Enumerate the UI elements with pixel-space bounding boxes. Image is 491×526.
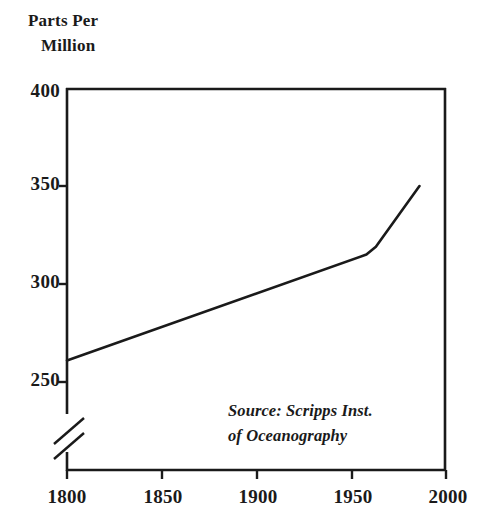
- y-axis-break-slash-lower: [54, 433, 84, 459]
- data-line-co2: [67, 186, 419, 360]
- plot-area: [0, 0, 491, 526]
- co2-line-chart: Parts PerMillion 400 350 300 250 1800 18…: [0, 0, 491, 526]
- y-axis-break-slash-upper: [54, 418, 84, 444]
